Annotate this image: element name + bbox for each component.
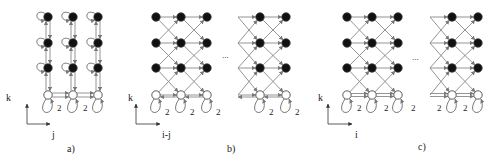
filled-node [474, 64, 482, 72]
filled-node [94, 13, 102, 21]
axis-label-k: k [6, 92, 11, 103]
edge-weight-label: 2 [437, 103, 442, 113]
filled-node [44, 13, 52, 21]
edge-weight-label: 2 [357, 103, 362, 113]
filled-node [448, 13, 456, 21]
self-loop [281, 99, 291, 113]
edge-weight-label: 2 [165, 107, 170, 117]
filled-node [44, 39, 52, 47]
filled-node [474, 39, 482, 47]
open-node [394, 91, 402, 99]
self-loop [342, 99, 352, 113]
filled-node [69, 64, 77, 72]
filled-node [203, 13, 211, 21]
diagonal-edge-down [430, 17, 449, 40]
filled-node [394, 13, 402, 21]
diagram-svg: kja)22ki-jb)22222...kic)...22222 [0, 0, 503, 161]
self-loop [176, 99, 186, 113]
filled-node [394, 64, 402, 72]
filled-node [69, 39, 77, 47]
self-loop [93, 99, 103, 113]
filled-node [256, 64, 264, 72]
filled-node [343, 13, 351, 21]
filled-node [368, 13, 376, 21]
edge-weight-label: 2 [463, 103, 468, 113]
self-loop [473, 99, 483, 113]
axis-label-k: k [318, 92, 323, 103]
open-node [474, 91, 482, 99]
axis-label-horizontal: i [355, 129, 358, 140]
diagonal-edge-up [238, 20, 257, 43]
diagonal-edge-down [430, 43, 449, 65]
edge-weight-label: 2 [190, 107, 195, 117]
filled-node [282, 64, 290, 72]
filled-node [256, 13, 264, 21]
self-loop [393, 99, 403, 113]
filled-node [368, 39, 376, 47]
open-node [94, 91, 102, 99]
diagonal-edge-up [238, 46, 257, 68]
open-node [368, 91, 376, 99]
self-loop [367, 99, 377, 113]
filled-node [44, 64, 52, 72]
filled-node [368, 64, 376, 72]
edge-weight-label: 2 [269, 107, 274, 117]
filled-node [152, 39, 160, 47]
open-node [177, 91, 185, 99]
filled-node [177, 64, 185, 72]
filled-node [94, 39, 102, 47]
open-node [448, 91, 456, 99]
filled-node [282, 13, 290, 21]
open-node [44, 91, 52, 99]
edge-weight-label: 2 [411, 103, 416, 113]
panel-caption: a) [67, 143, 75, 155]
filled-node [448, 64, 456, 72]
edge-weight-label: 2 [216, 107, 221, 117]
self-loop [43, 99, 53, 113]
panel-caption: b) [227, 143, 235, 155]
edge-weight-label: 2 [384, 103, 389, 113]
open-node [282, 91, 290, 99]
axis-label-k: k [128, 92, 133, 103]
open-node [203, 91, 211, 99]
dependence-graph-figure: kja)22ki-jb)22222...kic)...22222 [0, 0, 503, 161]
self-loop [151, 99, 161, 113]
self-loop [68, 99, 78, 113]
diagonal-edge-down [238, 17, 257, 40]
filled-node [448, 39, 456, 47]
diagonal-edge-up [430, 20, 449, 43]
ellipsis: ... [412, 52, 419, 62]
filled-node [474, 13, 482, 21]
filled-node [343, 39, 351, 47]
panel-caption: c) [418, 141, 426, 153]
self-loop [255, 99, 265, 113]
filled-node [69, 13, 77, 21]
self-loop [447, 99, 457, 113]
filled-node [152, 13, 160, 21]
filled-node [94, 64, 102, 72]
edge-weight-label: 2 [57, 103, 62, 113]
filled-node [394, 39, 402, 47]
filled-node [343, 64, 351, 72]
filled-node [177, 13, 185, 21]
filled-node [177, 39, 185, 47]
filled-node [256, 39, 264, 47]
diagonal-edge-up [430, 71, 449, 95]
diagonal-edge-up [238, 71, 257, 95]
diagonal-edge-down [238, 43, 257, 65]
filled-node [282, 39, 290, 47]
edge-weight-label: 2 [83, 103, 88, 113]
axis-label-horizontal: j [51, 129, 55, 140]
open-node [69, 91, 77, 99]
diagonal-edge-down [238, 68, 257, 92]
self-loop [202, 99, 212, 113]
edge-weight-label: 2 [295, 107, 300, 117]
diagonal-edge-down [430, 68, 449, 92]
diagonal-edge-up [430, 46, 449, 68]
open-node [343, 91, 351, 99]
open-node [256, 91, 264, 99]
filled-node [152, 64, 160, 72]
open-node [152, 91, 160, 99]
axis-label-horizontal: i-j [162, 129, 171, 140]
filled-node [203, 39, 211, 47]
